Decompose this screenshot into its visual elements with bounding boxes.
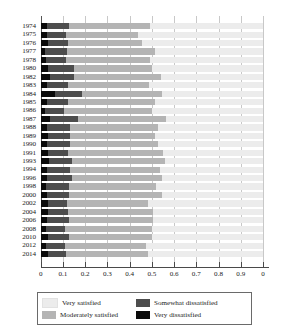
bar-segment [41, 158, 49, 164]
y-axis-tick-label: 1978 [6, 56, 36, 64]
bar-segment [41, 116, 50, 122]
x-axis-tick-label: 0.7 [192, 269, 201, 279]
bar-segment [69, 192, 161, 198]
stacked-bar [41, 217, 263, 223]
bar-row [41, 174, 263, 182]
bar-segment [49, 158, 72, 164]
x-axis-tick [263, 262, 264, 267]
y-axis-tick-label: 1986 [6, 106, 36, 114]
bar-segment [153, 217, 263, 223]
bar-row [41, 191, 263, 199]
x-axis-tick-labels: 00.10.20.30.40.50.60.70.80.90 [0, 269, 291, 281]
legend-swatch-icon [136, 311, 150, 319]
bar-segment [68, 99, 155, 105]
stacked-bar [41, 200, 263, 206]
bar-row [41, 39, 263, 47]
stacked-bar [41, 183, 263, 189]
bar-segment [69, 183, 156, 189]
legend-item-very-dissatisfied: Very dissatisfied [136, 311, 247, 319]
y-axis-tick-label: 2006 [6, 216, 36, 224]
bar-segment [41, 91, 55, 97]
bar-row [41, 30, 263, 38]
bar-segment [41, 65, 48, 71]
bar-segment [41, 150, 48, 156]
plot-canvas [41, 16, 263, 266]
bar-segment [69, 217, 153, 223]
bar-segment [47, 141, 69, 147]
bar-segment [41, 124, 48, 130]
stacked-bar [41, 23, 263, 29]
plot-area: 1974197519761977197819801982198319841985… [0, 0, 291, 268]
bar-segment [148, 200, 263, 206]
x-axis-tick-label: 0 [261, 269, 265, 279]
x-axis-tick-label: 0.9 [236, 269, 245, 279]
stacked-bar [41, 116, 263, 122]
y-axis-tick-label: 1991 [6, 149, 36, 157]
stacked-bar [41, 91, 263, 97]
y-axis-tick-label: 2008 [6, 225, 36, 233]
bar-segment [64, 108, 153, 114]
bar-segment [41, 200, 49, 206]
bar-segment [162, 175, 262, 181]
bar-segment [152, 65, 263, 71]
bar-row [41, 216, 263, 224]
bar-segment [146, 243, 262, 249]
bar-row [41, 149, 263, 157]
x-axis-tick [174, 262, 175, 267]
x-axis-tick-label: 0.8 [214, 269, 223, 279]
x-axis-tick-label: 0.5 [147, 269, 156, 279]
bar-segment [65, 226, 151, 232]
bar-segment [166, 116, 263, 122]
bar-segment [156, 183, 263, 189]
bar-segment [74, 74, 161, 80]
bar-row [41, 22, 263, 30]
bar-segment [155, 133, 263, 139]
bar-segment [50, 74, 74, 80]
bar-segment [47, 23, 69, 29]
bar-segment [66, 32, 139, 38]
bar-segment [47, 217, 69, 223]
y-axis-tick-label: 1982 [6, 73, 36, 81]
bar-row [41, 98, 263, 106]
y-axis-tick-labels: 1974197519761977197819801982198319841985… [6, 22, 36, 258]
bar-segment [48, 200, 67, 206]
x-axis-tick [241, 262, 242, 267]
bar-segment [41, 32, 48, 38]
bar-row [41, 106, 263, 114]
legend-swatch-icon [42, 298, 58, 308]
bar-segment [47, 192, 69, 198]
x-axis-tick [219, 262, 220, 267]
bar-segment [47, 32, 65, 38]
bar-segment [163, 150, 263, 156]
legend-item-label: Very dissatisfied [154, 311, 201, 319]
bar-segment [65, 243, 146, 249]
y-axis-tick-label: 1994 [6, 165, 36, 173]
y-axis-tick-label: 1993 [6, 157, 36, 165]
bar-segment [48, 234, 69, 240]
bar-segment [68, 209, 153, 215]
bar-segment [150, 57, 263, 63]
bar-segment [45, 108, 63, 114]
bar-segment [41, 141, 48, 147]
bar-segment [149, 82, 263, 88]
bar-row [41, 140, 263, 148]
bar-segment [41, 217, 48, 223]
stacked-bar [41, 57, 263, 63]
x-axis-tick [107, 262, 108, 267]
bar-row [41, 115, 263, 123]
y-axis-tick-label: 1974 [6, 22, 36, 30]
bar-segment [67, 48, 155, 54]
legend-item-somewhat-dissatisfied: Somewhat dissatisfied [136, 299, 247, 307]
y-axis-tick-label: 1990 [6, 140, 36, 148]
bar-segment [41, 209, 48, 215]
x-axis-tick [63, 262, 64, 267]
y-axis-tick-label: 1998 [6, 182, 36, 190]
y-axis-tick-label: 1987 [6, 115, 36, 123]
stacked-bar [41, 234, 263, 240]
legend-item-label: Somewhat dissatisfied [154, 299, 218, 307]
bar-segment [41, 74, 50, 80]
bar-segment [70, 141, 159, 147]
bar-segment [138, 32, 262, 38]
y-axis-tick-label: 1996 [6, 174, 36, 182]
bar-segment [68, 150, 164, 156]
